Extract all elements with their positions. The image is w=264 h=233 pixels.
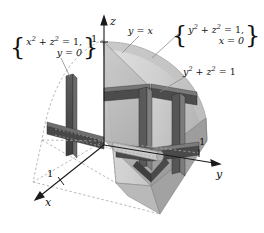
left-brace-line2: y = 0 (57, 48, 82, 59)
plane-label-eq: = (136, 25, 144, 36)
right-brace-close: } (245, 25, 260, 45)
right-l1-plus: + (201, 24, 209, 35)
right-brace-line2: x = 0 (219, 36, 244, 47)
axis-tick-x-1: 1 (47, 168, 53, 179)
plane-label-lhs: y (128, 25, 133, 36)
right-l1-rest: = 1, (224, 24, 244, 35)
left-l1-rest: = 1, (62, 36, 82, 47)
cyl-exp-2: 2 (212, 65, 216, 73)
left-l1-plus: + (39, 36, 47, 47)
left-l1-exp1: 2 (32, 35, 36, 43)
axis-label-y: y (216, 168, 222, 181)
plane-label-rhs: x (147, 25, 152, 36)
right-brace-open: { (172, 25, 187, 45)
right-l1-exp2: 2 (217, 23, 221, 31)
left-brace-open: { (10, 37, 25, 57)
right-l1-exp1: 2 (194, 23, 198, 31)
annotation-plane-y-equals-x: y = x (128, 26, 153, 37)
left-l1-exp2: 2 (55, 35, 59, 43)
annotation-cylinder-equation: y2 + z2 = 1 (183, 66, 236, 78)
left-brace-close: } (83, 37, 98, 57)
axis-label-x: x (45, 196, 51, 209)
annotation-right-brace-label: { y2 + z2 = 1, x = 0 } (172, 24, 260, 47)
annotation-left-brace-label: { x2 + z2 = 1, y = 0 } (10, 36, 98, 59)
beam-cross-left (47, 74, 104, 158)
cyl-exp-1: 2 (188, 65, 192, 73)
axis-label-z: z (110, 15, 116, 28)
axis-tick-y-1: 1 (199, 136, 205, 147)
cyl-rest: = 1 (219, 66, 236, 77)
cyl-plus: + (196, 66, 204, 77)
figure-3d-solid: z 1 y 1 x 1 y = x y2 + z2 = 1 { x2 + z2 … (0, 0, 264, 233)
